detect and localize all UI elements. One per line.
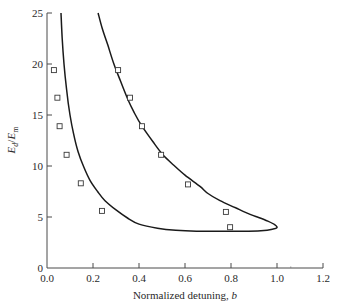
data-point-right (223, 209, 228, 214)
x-tick-label: 0.4 (132, 272, 146, 284)
data-point-right (128, 95, 133, 100)
data-point-left (57, 124, 62, 129)
x-tick-label: 0.8 (224, 272, 238, 284)
data-point-right (116, 68, 121, 73)
x-tick-label: 0.6 (178, 272, 192, 284)
y-ticks: 0510152025 (32, 7, 52, 274)
y-tick-label: 15 (32, 109, 44, 121)
y-tick-label: 20 (32, 58, 44, 70)
data-point-right (228, 225, 233, 230)
y-tick-label: 10 (32, 160, 44, 172)
data-point-right (159, 152, 164, 157)
x-tick-label: 1.0 (270, 272, 284, 284)
boundary-curve-path (61, 13, 277, 231)
data-point-right (186, 182, 191, 187)
x-tick-label: 1.2 (316, 272, 330, 284)
x-axis-label: Normalized detuning, b (133, 289, 238, 301)
y-axis-label: Ed/Em (5, 126, 20, 155)
y-tick-label: 0 (38, 262, 44, 274)
data-point-left (55, 95, 60, 100)
x-tick-label: 0.2 (86, 272, 100, 284)
y-tick-label: 25 (32, 7, 44, 19)
data-point-left (64, 152, 69, 157)
chart: 0.00.20.40.60.81.01.2 0510152025 Normali… (0, 0, 340, 307)
data-point-right (140, 124, 145, 129)
data-point-left (100, 208, 105, 213)
y-tick-label: 5 (38, 211, 44, 223)
data-point-left (78, 181, 83, 186)
data-point-left (51, 68, 56, 73)
data-markers (51, 68, 232, 230)
x-ticks: 0.00.20.40.60.81.01.2 (40, 263, 330, 284)
boundary-curve (61, 13, 277, 231)
axis-speck (290, 266, 291, 267)
